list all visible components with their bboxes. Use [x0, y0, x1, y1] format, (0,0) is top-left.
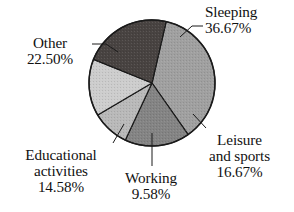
pie-label-other-value: 22.50% — [6, 51, 94, 67]
pie-label-other-name: Other — [6, 35, 94, 51]
pie-label-education-value: 14.58% — [2, 179, 120, 195]
pie-label-working-value: 9.58% — [113, 186, 189, 202]
pie-label-education-name-line2: activities — [2, 163, 120, 179]
pie-label-working-name: Working — [113, 170, 189, 186]
pie-label-sleeping-value: 36.67% — [205, 20, 257, 36]
pie-label-leisure-value: 16.67% — [209, 164, 270, 180]
pie-label-sleeping: Sleeping 36.67% — [205, 4, 257, 36]
pie-label-sleeping-name: Sleeping — [205, 4, 257, 20]
pie-label-leisure-and-sports: Leisure and sports 16.67% — [209, 132, 270, 180]
pie-label-education-name-line1: Educational — [2, 147, 120, 163]
pie-label-leisure-name-line1: Leisure — [209, 132, 270, 148]
pie-label-educational-activities: Educational activities 14.58% — [2, 147, 120, 195]
pie-chart-figure: Sleeping 36.67% Other 22.50% Leisure and… — [0, 0, 294, 212]
pie-label-other: Other 22.50% — [6, 35, 94, 67]
pie-label-working: Working 9.58% — [113, 170, 189, 202]
pie-label-leisure-name-line2: and sports — [209, 148, 270, 164]
pie-texture-overlay — [90, 21, 215, 146]
